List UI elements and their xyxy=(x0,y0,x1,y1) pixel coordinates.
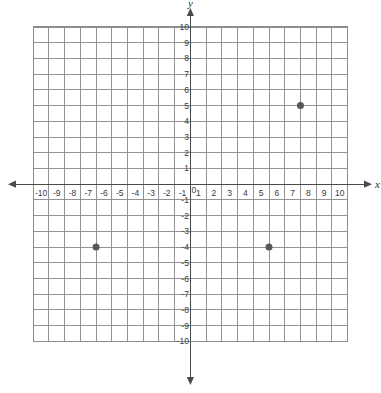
y-axis-tick-label: -2 xyxy=(181,211,189,220)
x-axis-tick-label: -5 xyxy=(116,188,124,197)
x-axis-tick-label: 9 xyxy=(322,188,327,197)
y-axis-tick-label: 3 xyxy=(184,133,189,142)
y-axis-name: y xyxy=(188,0,193,9)
data-point: (7, 5) xyxy=(297,102,304,109)
x-axis-tick-label: 2 xyxy=(212,188,217,197)
data-point: (5, -4) xyxy=(266,244,273,251)
y-axis-tick-label: 8 xyxy=(184,54,189,63)
x-axis-tick-label: -6 xyxy=(100,188,108,197)
x-axis-tick-label: -9 xyxy=(53,188,61,197)
x-axis-tick-label: -4 xyxy=(132,188,140,197)
y-axis-tick-label: 7 xyxy=(184,70,189,79)
y-axis-tick-label: 4 xyxy=(184,117,189,126)
y-axis-tick-label: 2 xyxy=(184,149,189,158)
x-axis-tick-label: 4 xyxy=(243,188,248,197)
x-axis-tick-label: -2 xyxy=(163,188,171,197)
x-axis-tick-label: -10 xyxy=(35,188,47,197)
coordinate-plane-figure: (7, 5)(-6, -4)(5, -4) -10-9-8-7-6-5-4-3-… xyxy=(0,0,381,393)
y-axis-tick-label: -6 xyxy=(181,274,189,283)
x-axis-arrow-left xyxy=(8,181,16,188)
y-axis-tick-label: 10 xyxy=(179,23,188,32)
y-axis-tick-label: 6 xyxy=(184,86,189,95)
x-axis-tick-label: 10 xyxy=(335,188,344,197)
x-axis-tick-label: -7 xyxy=(84,188,92,197)
y-axis-arrow-down xyxy=(187,377,194,385)
y-axis-tick-label: 9 xyxy=(184,38,189,47)
axes xyxy=(8,8,372,385)
y-axis-tick-label: 5 xyxy=(184,101,189,110)
x-axis-arrow-right xyxy=(364,181,372,188)
x-axis-name: x xyxy=(375,179,380,190)
y-axis-tick-label: -8 xyxy=(181,306,189,315)
x-axis-tick-label: -3 xyxy=(147,188,155,197)
x-axis-tick-label: 1 xyxy=(196,188,201,197)
data-point: (-6, -4) xyxy=(93,244,100,251)
y-axis-tick-label: -9 xyxy=(181,321,189,330)
x-axis-tick-label: -8 xyxy=(69,188,77,197)
y-axis-tick-label: -5 xyxy=(181,259,189,268)
y-axis-tick-label: -1 xyxy=(181,196,189,205)
x-axis-tick-label: 5 xyxy=(259,188,264,197)
y-axis-tick-label: -7 xyxy=(181,290,189,299)
x-axis-tick-label: 6 xyxy=(274,188,279,197)
y-axis-arrow-up xyxy=(187,8,194,16)
y-axis-tick-label: -3 xyxy=(181,227,189,236)
x-axis-tick-label: 8 xyxy=(306,188,311,197)
y-axis-tick-label: -10 xyxy=(177,337,189,346)
x-axis-tick-label: 3 xyxy=(227,188,232,197)
plotted-points: (7, 5)(-6, -4)(5, -4) xyxy=(93,102,304,250)
origin-tick-label: 0 xyxy=(191,186,196,195)
y-axis-tick-label: -4 xyxy=(181,243,189,252)
y-axis-tick-label: 1 xyxy=(184,164,189,173)
x-axis-tick-label: 7 xyxy=(290,188,295,197)
